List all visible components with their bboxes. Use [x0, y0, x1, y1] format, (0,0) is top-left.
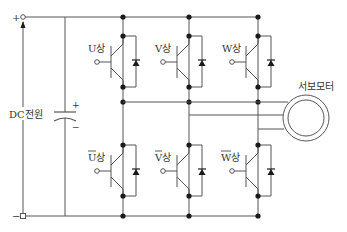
- arrow-up-icon: [21, 21, 26, 28]
- plus-terminal-label: +: [12, 12, 20, 23]
- switch-label-u-lower: U상: [88, 152, 105, 163]
- motor-feed-wires: [123, 102, 288, 129]
- motor-label: 서보모터: [298, 81, 334, 92]
- minus-terminal-label: −: [12, 211, 20, 222]
- negative-terminal-icon: [21, 214, 26, 219]
- dc-source-label: DC전원: [9, 109, 43, 120]
- servo-motor: 서보모터: [283, 81, 334, 141]
- switch-label-w-lower: W상: [221, 152, 240, 163]
- switch-label-u-upper: U상: [88, 43, 105, 54]
- igbt-lower-w-icon: [230, 142, 275, 198]
- dc-link-capacitor: + −: [54, 17, 80, 216]
- igbt-upper-v-icon: [161, 33, 206, 89]
- igbt-lower-u-icon: [95, 142, 140, 198]
- capacitor-minus-label: −: [72, 122, 80, 132]
- switch-label-v-upper: V상: [154, 43, 171, 54]
- dc-source: + − DC전원: [8, 12, 46, 222]
- phase-leg-v: V상 V상: [154, 14, 206, 218]
- switch-label-v-lower: V상: [154, 152, 171, 163]
- igbt-upper-u-icon: [95, 33, 140, 89]
- phase-leg-u: U상 U상: [88, 14, 140, 218]
- igbt-lower-v-icon: [161, 142, 206, 198]
- switch-label-w-upper: W상: [222, 43, 241, 54]
- igbt-upper-w-icon: [230, 33, 275, 89]
- inverter-circuit-diagram: + − DC전원 + − U상 U상 V상 V상: [0, 0, 347, 232]
- capacitor-plus-label: +: [72, 100, 80, 110]
- phase-leg-w: W상 W상: [221, 14, 275, 218]
- positive-terminal-icon: [21, 15, 26, 20]
